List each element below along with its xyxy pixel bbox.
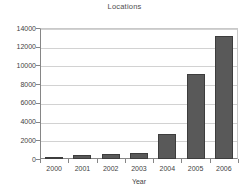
- x-axis-tick: [210, 159, 211, 163]
- x-axis-tick-label: 2003: [125, 165, 153, 172]
- x-axis-tick: [153, 159, 154, 163]
- bar: [130, 153, 148, 159]
- x-axis-tick: [125, 159, 126, 163]
- x-axis-tick: [68, 159, 69, 163]
- bar: [215, 36, 233, 160]
- y-axis-tick-label: 12000: [2, 43, 36, 50]
- x-axis-tick: [181, 159, 182, 163]
- x-axis-tick-label: 2005: [181, 165, 209, 172]
- bar: [45, 157, 63, 159]
- y-axis-tick-label: 4000: [2, 118, 36, 125]
- bar-chart: Locations 020004000600080001000012000140…: [0, 0, 249, 190]
- bar: [73, 155, 91, 159]
- bars-layer: [40, 28, 238, 159]
- y-axis-tick-label: 8000: [2, 81, 36, 88]
- bar: [158, 134, 176, 159]
- x-axis-title: Year: [40, 178, 238, 185]
- x-axis-tick-label: 2000: [40, 165, 68, 172]
- x-axis-tick-label: 2004: [153, 165, 181, 172]
- x-axis-tick-label: 2002: [97, 165, 125, 172]
- y-axis-tick-label: 6000: [2, 99, 36, 106]
- chart-title: Locations: [0, 2, 249, 11]
- y-axis-tick-label: 2000: [2, 137, 36, 144]
- x-axis-tick-label: 2006: [210, 165, 238, 172]
- y-axis-tick-label: 10000: [2, 62, 36, 69]
- x-axis-tick-label: 2001: [68, 165, 96, 172]
- x-axis-tick: [40, 159, 41, 163]
- y-axis-tick-label: 0: [2, 156, 36, 163]
- x-axis-tick: [238, 159, 239, 163]
- bar: [102, 154, 120, 159]
- bar: [187, 74, 205, 159]
- x-axis-tick: [97, 159, 98, 163]
- y-axis-tick-label: 14000: [2, 25, 36, 32]
